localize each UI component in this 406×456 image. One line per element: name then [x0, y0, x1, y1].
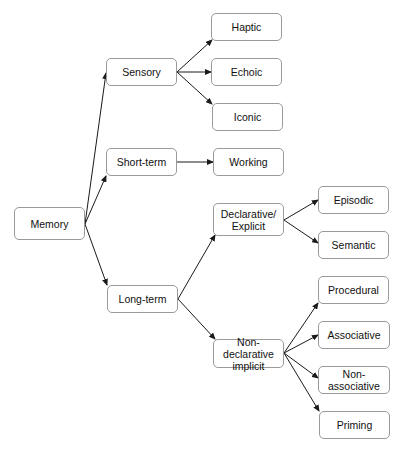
node-haptic: Haptic: [211, 13, 282, 41]
node-haptic-label: Haptic: [232, 21, 262, 33]
node-short-term: Short-term: [106, 148, 177, 176]
node-declarative: Declarative/ Explicit: [213, 203, 284, 236]
node-procedural-label: Procedural: [328, 284, 379, 296]
node-associative: Associative: [318, 321, 390, 349]
edge-non_declarative-to-procedural: [284, 303, 318, 353]
node-long-term-label: Long-term: [119, 293, 167, 305]
node-non-declarative-label: Non-declarative implicit: [214, 336, 283, 372]
edge-non_declarative-to-priming: [284, 353, 319, 411]
edge-memory-to-long_term: [85, 224, 107, 285]
node-echoic: Echoic: [211, 58, 282, 86]
node-episodic: Episodic: [318, 186, 389, 214]
node-echoic-label: Echoic: [231, 66, 263, 78]
node-semantic: Semantic: [318, 231, 389, 259]
node-long-term: Long-term: [107, 285, 178, 313]
node-priming-label: Priming: [337, 419, 373, 431]
node-non-associative-label: Non-associative: [319, 368, 389, 392]
node-non-declarative: Non-declarative implicit: [213, 339, 284, 368]
node-iconic-label: Iconic: [234, 111, 261, 123]
edge-memory-to-sensory: [85, 73, 106, 224]
node-working-label: Working: [229, 156, 267, 168]
node-working: Working: [213, 148, 284, 176]
edge-declarative-to-semantic: [284, 220, 318, 243]
node-procedural: Procedural: [318, 276, 389, 304]
edge-sensory-to-iconic: [177, 72, 212, 104]
node-short-term-label: Short-term: [117, 156, 167, 168]
node-non-associative: Non-associative: [318, 366, 390, 394]
node-sensory-label: Sensory: [122, 66, 161, 78]
edge-non_declarative-to-non_associative: [284, 353, 318, 378]
edge-sensory-to-haptic: [177, 40, 212, 72]
node-semantic-label: Semantic: [332, 239, 376, 251]
node-associative-label: Associative: [327, 329, 380, 341]
edge-long_term-to-declarative: [178, 235, 215, 299]
edge-declarative-to-episodic: [284, 200, 318, 220]
node-episodic-label: Episodic: [334, 194, 374, 206]
node-declarative-label: Declarative/ Explicit: [214, 208, 283, 232]
node-priming: Priming: [319, 411, 390, 439]
edge-non_declarative-to-associative: [284, 335, 318, 353]
node-sensory: Sensory: [106, 58, 177, 86]
node-memory: Memory: [14, 207, 85, 240]
edge-long_term-to-non_declarative: [178, 299, 215, 339]
node-memory-label: Memory: [31, 218, 69, 230]
node-iconic: Iconic: [212, 103, 283, 131]
